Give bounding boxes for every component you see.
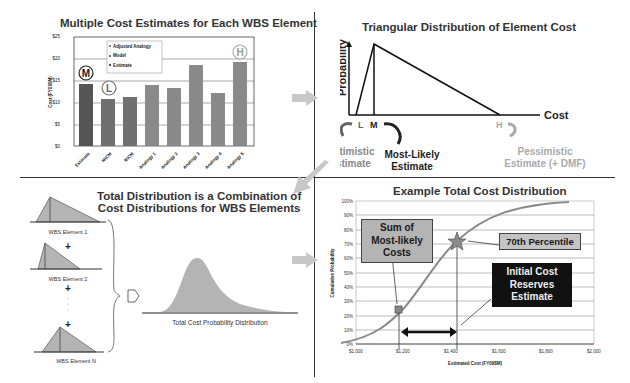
svg-text:MICM: MICM — [101, 151, 113, 163]
svg-text:$15: $15 — [52, 78, 60, 83]
svg-text:Probability: Probability — [340, 38, 348, 96]
svg-text:Estimated Cost (FY09$M): Estimated Cost (FY09$M) — [448, 361, 503, 366]
triangular-title: Triangular Distribution of Element Cost — [362, 21, 576, 33]
svg-text:100%: 100% — [341, 199, 353, 204]
svg-text:Total Cost Probability Distrib: Total Cost Probability Distribution — [172, 319, 268, 327]
svg-text:M: M — [370, 120, 378, 130]
svg-text:Estimate: Estimate — [74, 151, 91, 168]
svg-text:$0: $0 — [55, 144, 61, 149]
svg-text:Estimate: Estimate — [113, 63, 132, 68]
sum-most-likely-box: Sum of Most-likely Costs — [361, 219, 433, 263]
svg-text:40%: 40% — [344, 285, 353, 290]
svg-text:$2,000: $2,000 — [587, 349, 601, 354]
svg-text:Adjusted Analogy: Adjusted Analogy — [113, 44, 152, 49]
svg-text:80%: 80% — [344, 228, 353, 233]
svg-text:$10: $10 — [52, 100, 60, 105]
svg-text:M: M — [82, 68, 90, 79]
svg-text:$5: $5 — [55, 122, 61, 127]
svg-text:Estimate: Estimate — [391, 161, 433, 172]
initial-cost-reserves-box: Initial Cost Reserves Estimate — [492, 263, 572, 307]
svg-text:+: + — [65, 283, 71, 294]
svg-text:L: L — [358, 120, 364, 130]
svg-text:+: + — [65, 319, 71, 330]
svg-text:+: + — [65, 241, 71, 252]
svg-text:Cost (FY09$M): Cost (FY09$M) — [48, 76, 53, 108]
svg-text:Analogy 1: Analogy 1 — [138, 151, 157, 170]
svg-text:NICM: NICM — [123, 151, 135, 163]
svg-text:10%: 10% — [344, 328, 353, 333]
svg-text:WBS Element N: WBS Element N — [56, 358, 96, 364]
svg-text:$20: $20 — [52, 56, 60, 61]
svg-text:Model: Model — [113, 53, 126, 58]
right-arrow-top — [292, 90, 318, 106]
svg-text:$1,600: $1,600 — [492, 349, 506, 354]
svg-text:$1,400: $1,400 — [444, 349, 458, 354]
svg-text:Pessimistic: Pessimistic — [517, 146, 572, 157]
svg-text:Estimate: Estimate — [340, 158, 371, 169]
70th-percentile-box: 70th Percentile — [499, 233, 581, 250]
svg-text:Analogy 5: Analogy 5 — [226, 151, 245, 170]
svg-text:20%: 20% — [344, 314, 353, 319]
svg-text:Most-Likely: Most-Likely — [384, 149, 439, 160]
bar-chart: $25$20$15 $10$5$0 Adjusted Analogy Model… — [40, 30, 260, 180]
svg-text:Estimate (+ DMF): Estimate (+ DMF) — [504, 158, 585, 169]
svg-text:H: H — [236, 47, 243, 58]
svg-text:Cumulative Probability: Cumulative Probability — [330, 248, 335, 297]
svg-text:WBS Element 1: WBS Element 1 — [49, 229, 88, 235]
svg-text:$1,800: $1,800 — [539, 349, 553, 354]
svg-text:Analogy 2: Analogy 2 — [160, 151, 179, 170]
svg-text:Optimistic: Optimistic — [340, 146, 375, 157]
svg-text:$1,200: $1,200 — [396, 349, 410, 354]
svg-text:$1,000: $1,000 — [349, 349, 363, 354]
svg-text:50%: 50% — [344, 271, 353, 276]
combination-diagram: WBS Element 1 + WBS Element 2 + + WBS El… — [0, 190, 300, 380]
svg-text:WBS Element 2: WBS Element 2 — [49, 276, 88, 282]
svg-text:Cost: Cost — [544, 109, 569, 121]
svg-text:Analogy 4: Analogy 4 — [204, 151, 223, 170]
svg-text:70%: 70% — [344, 242, 353, 247]
svg-text:90%: 90% — [344, 213, 353, 218]
svg-text:30%: 30% — [344, 299, 353, 304]
bar-chart-title: Multiple Cost Estimates for Each WBS Ele… — [60, 17, 317, 29]
svg-text:$25: $25 — [52, 34, 60, 39]
svg-text:H: H — [496, 120, 503, 130]
svg-text:Analogy 3: Analogy 3 — [182, 151, 201, 170]
svg-text:L: L — [106, 83, 112, 94]
svg-text:60%: 60% — [344, 256, 353, 261]
svg-text:0%: 0% — [346, 342, 353, 347]
triangular-diagram: Probability Cost L M H Optimistic Estima… — [340, 38, 625, 178]
